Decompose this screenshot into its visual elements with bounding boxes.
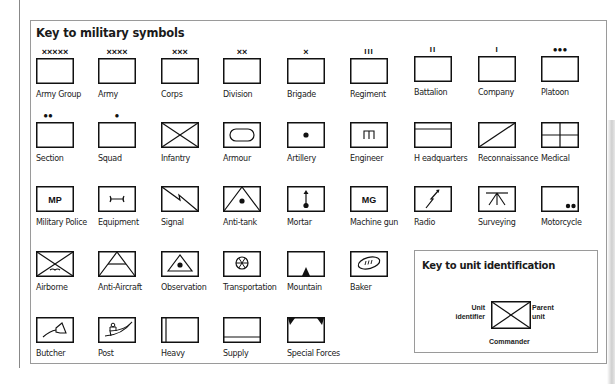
- symbol-reconnaissance: Reconnaissance: [478, 122, 542, 182]
- machine-gun-icon: MG: [350, 186, 388, 212]
- signal-icon: [161, 186, 199, 212]
- baker-icon: [350, 251, 388, 277]
- svg-text:MP: MP: [48, 195, 62, 205]
- echelon-mark: ××××: [98, 47, 136, 57]
- headquarters-icon: [414, 122, 452, 148]
- symbol-special-forces: Special Forces: [287, 317, 351, 377]
- symbol-transportation: Transportation: [223, 251, 287, 311]
- symbol-baker: Baker: [350, 251, 414, 311]
- echelon-mark: ●●●: [541, 45, 579, 55]
- symbol-equipment: Equipment: [98, 186, 162, 246]
- symbol-label: Army Group: [36, 90, 81, 99]
- symbol-label: Equipment: [98, 218, 139, 227]
- butcher-icon: [36, 317, 74, 343]
- symbol-label: Armour: [223, 154, 251, 163]
- symbol-signal: Signal: [161, 186, 225, 246]
- symbol-label: Corps: [161, 90, 183, 99]
- symbol-label: Baker: [350, 283, 371, 292]
- symbol-mountain: Mountain: [287, 251, 351, 311]
- symbol-squad: ● Squad: [98, 122, 162, 182]
- battalion-icon: [414, 56, 452, 82]
- symbol-label: Mortar: [287, 218, 312, 227]
- mountain-icon: [287, 251, 325, 277]
- division-icon: [223, 58, 261, 84]
- symbol-label: Squad: [98, 154, 122, 163]
- symbol-headquarters: H eadquarters: [414, 122, 478, 182]
- echelon-mark: I: [478, 45, 516, 55]
- symbol-heavy: Heavy: [161, 317, 225, 377]
- unit-key-title: Key to unit identification: [422, 260, 555, 271]
- symbol-medical: Medical: [541, 122, 605, 182]
- echelon-mark: ×××: [161, 47, 199, 57]
- symbol-label: Radio: [414, 218, 435, 227]
- symbol-army: ×××× Army: [98, 58, 162, 118]
- symbol-label: Airborne: [36, 283, 68, 292]
- symbol-anti-tank: Anti-tank: [223, 186, 287, 246]
- symbol-section: ●● Section: [36, 122, 100, 182]
- symbol-label: Military Police: [36, 218, 87, 227]
- military-police-icon: MP: [36, 186, 74, 212]
- transportation-icon: [223, 251, 261, 277]
- army-icon: [98, 58, 136, 84]
- symbol-label: H eadquarters: [414, 154, 467, 163]
- post-icon: [98, 317, 136, 343]
- svg-text:MG: MG: [362, 195, 377, 205]
- symbol-label: Anti-Aircraft: [98, 283, 142, 292]
- radio-icon: [414, 186, 452, 212]
- symbol-company: I Company: [478, 56, 542, 116]
- symbol-division: ×× Division: [223, 58, 287, 118]
- platoon-icon: [541, 56, 579, 82]
- regiment-icon: [350, 58, 388, 84]
- symbol-label: Engineer: [350, 154, 383, 163]
- symbol-armour: Armour: [223, 122, 287, 182]
- symbol-label: Heavy: [161, 349, 185, 358]
- unit-key-infantry-icon: [491, 301, 531, 333]
- symbol-post: Post: [98, 317, 162, 377]
- symbol-infantry: Infantry: [161, 122, 225, 182]
- commander-label: Commander: [489, 338, 530, 345]
- symbol-label: Motorcycle: [541, 218, 582, 227]
- symbol-label: Transportation: [223, 283, 277, 292]
- symbol-label: Mountain: [287, 283, 322, 292]
- symbol-army-group: ××××× Army Group: [36, 58, 100, 118]
- supply-icon: [223, 317, 261, 343]
- reconnaissance-icon: [478, 122, 516, 148]
- symbol-surveying: Surveying: [478, 186, 542, 246]
- symbol-airborne: Airborne: [36, 251, 100, 311]
- medical-icon: [541, 122, 579, 148]
- echelon-mark: II: [414, 45, 452, 55]
- symbol-battalion: II Battalion: [414, 56, 478, 116]
- symbol-butcher: Butcher: [36, 317, 100, 377]
- symbol-label: Reconnaissance: [478, 154, 538, 163]
- echelon-mark: ×××××: [36, 47, 74, 57]
- corps-icon: [161, 58, 199, 84]
- symbol-supply: Supply: [223, 317, 287, 377]
- symbol-label: Infantry: [161, 154, 190, 163]
- symbol-label: Regiment: [350, 90, 386, 99]
- infantry-icon: [161, 122, 199, 148]
- symbol-machine-gun: MG Machine gun: [350, 186, 414, 246]
- symbol-platoon: ●●● Platoon: [541, 56, 605, 116]
- symbol-observation: Observation: [161, 251, 225, 311]
- brigade-icon: [287, 58, 325, 84]
- anti-aircraft-icon: [98, 251, 136, 277]
- army-group-icon: [36, 58, 74, 84]
- airborne-icon: [36, 251, 74, 277]
- unit-identification-key: Key to unit identification Unit identifi…: [414, 250, 598, 353]
- motorcycle-icon: [541, 186, 579, 212]
- page-edge-shadow: [607, 120, 615, 384]
- symbol-mortar: Mortar: [287, 186, 351, 246]
- echelon-mark: ×: [287, 47, 325, 57]
- echelon-mark: ●●: [36, 111, 60, 121]
- observation-icon: [161, 251, 199, 277]
- mortar-icon: [287, 186, 325, 212]
- engineer-icon: [350, 122, 388, 148]
- symbol-label: Observation: [161, 283, 206, 292]
- symbol-label: Medical: [541, 154, 570, 163]
- armour-icon: [223, 122, 261, 148]
- symbol-anti-aircraft: Anti-Aircraft: [98, 251, 162, 311]
- symbol-engineer: Engineer: [350, 122, 414, 182]
- parent-unit-label: Parent unit: [532, 303, 554, 321]
- symbol-label: Division: [223, 90, 252, 99]
- symbol-label: Post: [98, 349, 114, 358]
